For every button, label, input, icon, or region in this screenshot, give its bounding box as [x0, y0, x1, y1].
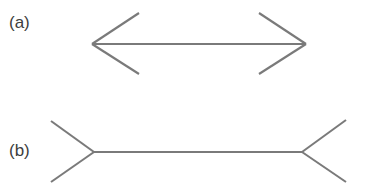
panel-b-left-lower-fin	[51, 152, 94, 182]
panel-label-b: (b)	[9, 142, 30, 159]
panel-b-stimulus	[51, 120, 346, 182]
panel-a-stimulus	[92, 13, 306, 74]
panel-a-left-upper-fin	[92, 13, 139, 44]
panel-b-right-upper-fin	[302, 120, 346, 152]
panel-b-left-upper-fin	[51, 121, 94, 152]
figure-canvas: (a) (b)	[0, 0, 369, 183]
muller-lyer-illustration	[0, 0, 369, 183]
panel-b-right-lower-fin	[302, 152, 346, 182]
panel-a-left-lower-fin	[92, 44, 139, 74]
panel-label-a: (a)	[9, 14, 30, 31]
panel-a-right-lower-fin	[259, 44, 306, 74]
panel-a-right-upper-fin	[259, 13, 306, 44]
